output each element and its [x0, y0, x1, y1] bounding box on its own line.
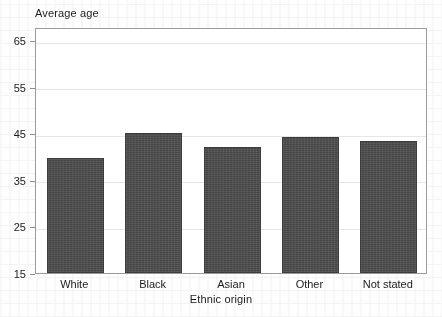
bar-chart-screenshot: Average age 152535455565 WhiteBlackAsian…	[0, 0, 442, 317]
y-axis-title: Average age	[35, 7, 99, 20]
plot-area	[35, 28, 427, 274]
y-axis-tick-label: 65	[14, 35, 26, 48]
y-axis-tick-mark	[30, 41, 35, 42]
x-axis-tick-label: Black	[108, 276, 198, 292]
y-axis-tick: 25	[0, 221, 35, 234]
bar-white	[47, 158, 104, 273]
y-axis-tick-mark	[30, 274, 35, 275]
y-axis-tick: 35	[0, 175, 35, 188]
x-axis-tick-label: Asian	[186, 276, 276, 292]
y-axis-tick: 55	[0, 82, 35, 95]
gridline	[36, 43, 426, 44]
y-axis-tick-mark	[30, 181, 35, 182]
x-axis-tick-label: White	[29, 276, 119, 292]
bar-other	[282, 137, 339, 273]
x-axis-tick-label: Not stated	[343, 276, 433, 292]
bar-asian	[204, 147, 261, 273]
gridline	[36, 136, 426, 137]
y-axis-tick: 65	[0, 35, 35, 48]
y-axis-tick-mark	[30, 134, 35, 135]
y-axis-tick-label: 55	[14, 82, 26, 95]
x-axis-title: Ethnic origin	[0, 292, 442, 306]
y-axis-tick-label: 25	[14, 221, 26, 234]
y-axis-tick: 45	[0, 128, 35, 141]
x-axis-tick-label: Other	[264, 276, 354, 292]
bar-black	[125, 133, 182, 273]
y-axis-tick-mark	[30, 88, 35, 89]
y-axis-tick-mark	[30, 227, 35, 228]
gridline	[36, 89, 426, 90]
y-axis-tick-label: 15	[14, 268, 26, 281]
y-axis-tick-label: 45	[14, 128, 26, 141]
bar-not-stated	[360, 141, 417, 273]
y-axis-tick-label: 35	[14, 175, 26, 188]
